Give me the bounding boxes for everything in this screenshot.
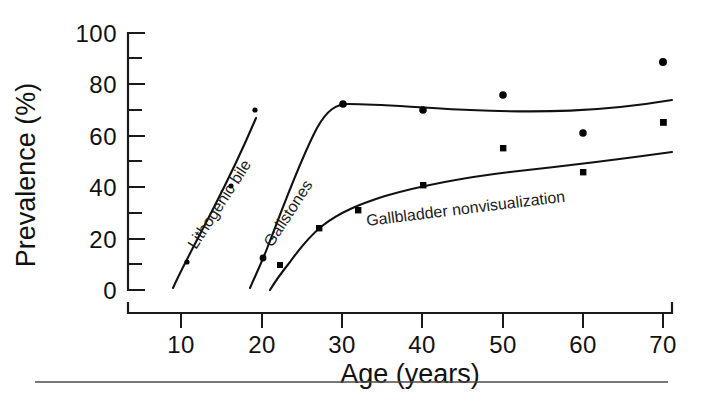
x-tick-label-50: 50	[489, 331, 517, 358]
data-point	[316, 225, 322, 231]
figure-container: 100 80 60 40 20 0 Prevalence (%) 10 20 3…	[0, 0, 706, 406]
y-tick-label-80: 80	[89, 71, 117, 98]
data-point	[355, 207, 361, 213]
data-point	[420, 182, 426, 188]
series-gallbladder-nonvisualization: Gallbladder nonvisualization	[270, 119, 672, 290]
x-axis	[128, 303, 672, 328]
data-point	[499, 91, 507, 99]
data-point	[260, 255, 267, 262]
data-point	[184, 259, 189, 264]
y-tick-label-100: 100	[75, 20, 117, 47]
data-point	[580, 169, 586, 175]
x-tick-label-70: 70	[649, 331, 677, 358]
y-tick-label-60: 60	[89, 123, 117, 150]
data-point	[252, 107, 257, 112]
x-tick-label-30: 30	[328, 331, 356, 358]
data-point	[659, 58, 667, 66]
series-gallstones: Gallstones	[250, 58, 672, 288]
data-point	[500, 145, 506, 151]
series-label-lithogenic-bile: Lithogenic bile	[184, 156, 254, 251]
x-tick-label-60: 60	[569, 331, 597, 358]
data-point	[339, 100, 347, 108]
y-tick-label-0: 0	[103, 277, 117, 304]
y-axis-title: Prevalence (%)	[11, 83, 41, 268]
data-point	[277, 262, 283, 268]
x-axis-title: Age (years)	[340, 359, 480, 389]
y-tick-label-20: 20	[89, 226, 117, 253]
x-tick-label-10: 10	[167, 331, 195, 358]
x-tick-label-40: 40	[408, 331, 436, 358]
x-axis-line	[128, 303, 672, 313]
chart-svg: 100 80 60 40 20 0 Prevalence (%) 10 20 3…	[0, 0, 706, 406]
data-point	[579, 129, 587, 137]
x-tick-label-20: 20	[248, 331, 276, 358]
gallstones-curve	[250, 100, 672, 288]
data-point	[419, 106, 427, 114]
y-axis	[128, 33, 145, 290]
data-point	[660, 119, 667, 126]
series-lithogenic-bile: Lithogenic bile	[173, 107, 258, 288]
y-tick-label-40: 40	[89, 174, 117, 201]
gallbladder-nonvisualization-curve	[270, 152, 672, 290]
